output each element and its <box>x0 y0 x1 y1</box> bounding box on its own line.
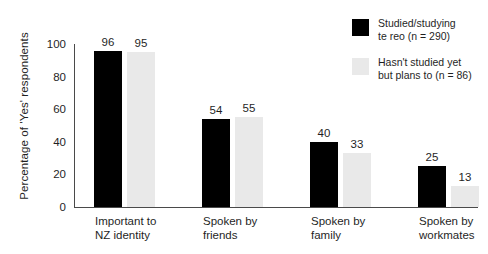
bar-group: 5455 <box>202 44 263 207</box>
bar-value-label: 33 <box>337 138 377 150</box>
legend-swatch <box>352 19 369 36</box>
legend-swatch <box>352 58 369 75</box>
legend-label-line: Hasn't studied yet <box>378 56 488 69</box>
bar[interactable] <box>418 166 446 207</box>
y-tick-label-20: 20 <box>32 168 66 180</box>
x-axis-label: Spoken byworkmates <box>419 215 488 242</box>
x-axis-line <box>74 207 478 208</box>
y-axis-title: Percentage of 'Yes' respondents <box>18 9 30 224</box>
legend-label: Studied/studyingte reo (n = 290) <box>378 17 488 42</box>
bar[interactable] <box>310 142 338 207</box>
bar-value-label: 95 <box>121 37 161 49</box>
x-axis-label-line: Spoken by <box>203 215 307 229</box>
bar[interactable] <box>202 119 230 207</box>
bar[interactable] <box>343 153 371 207</box>
bar-group: 9695 <box>94 44 155 207</box>
legend-label-line: but plans to (n = 86) <box>378 69 488 82</box>
legend-label-line: Studied/studying <box>378 17 488 30</box>
bar-value-label: 25 <box>412 151 452 163</box>
y-tick-label-60: 60 <box>32 103 66 115</box>
legend-label: Hasn't studied yetbut plans to (n = 86) <box>378 56 488 81</box>
bar-chart: Percentage of 'Yes' respondents 02040608… <box>0 0 488 254</box>
y-tick-label-100: 100 <box>32 38 66 50</box>
x-axis-label-line: NZ identity <box>95 229 199 243</box>
x-axis-label-line: family <box>311 229 415 243</box>
y-tick-label-0: 0 <box>32 201 66 213</box>
bar[interactable] <box>235 117 263 207</box>
bar[interactable] <box>94 51 122 207</box>
x-axis-label-line: Spoken by <box>311 215 415 229</box>
x-axis-label-line: Spoken by <box>419 215 488 229</box>
bar[interactable] <box>451 186 479 207</box>
bar[interactable] <box>127 52 155 207</box>
x-axis-label: Important toNZ identity <box>95 215 199 242</box>
legend-item[interactable]: Hasn't studied yetbut plans to (n = 86) <box>352 57 488 87</box>
x-axis-label: Spoken byfriends <box>203 215 307 242</box>
bar-value-label: 40 <box>304 127 344 139</box>
bar-value-label: 55 <box>229 102 269 114</box>
legend-label-line: te reo (n = 290) <box>378 30 488 43</box>
y-tick-label-40: 40 <box>32 136 66 148</box>
x-axis-label-line: Important to <box>95 215 199 229</box>
legend-item[interactable]: Studied/studyingte reo (n = 290) <box>352 18 488 48</box>
x-axis-label-line: workmates <box>419 229 488 243</box>
y-axis-line <box>74 44 75 208</box>
bar-value-label: 13 <box>445 171 485 183</box>
y-tick-label-80: 80 <box>32 71 66 83</box>
x-axis-label-line: friends <box>203 229 307 243</box>
x-axis-label: Spoken byfamily <box>311 215 415 242</box>
legend: Studied/studyingte reo (n = 290)Hasn't s… <box>352 18 488 96</box>
